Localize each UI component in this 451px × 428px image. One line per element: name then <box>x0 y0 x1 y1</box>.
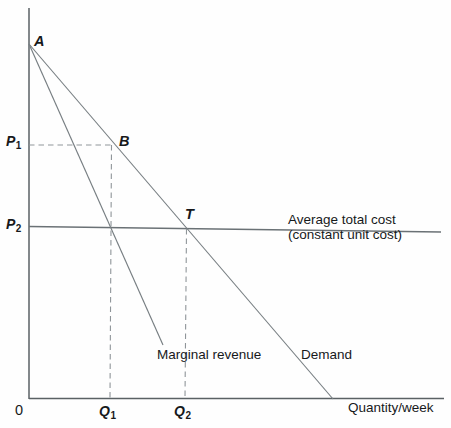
y-tick-p1-base: P <box>6 133 15 149</box>
point-label-a: A <box>34 33 45 49</box>
x-tick-q2: Q2 <box>174 403 190 419</box>
x-tick-q1-sub: 1 <box>110 410 116 421</box>
demand-label: Demand <box>301 347 352 362</box>
average-total-cost-sublabel: (constant unit cost) <box>288 227 402 242</box>
marginal-revenue-label: Marginal revenue <box>157 347 261 362</box>
point-label-b: B <box>119 133 130 149</box>
y-tick-p1-sub: 1 <box>16 140 22 151</box>
x-axis-label: Quantity/week <box>348 400 434 415</box>
x-tick-q1: Q1 <box>99 403 115 419</box>
guide-q1-vertical <box>110 145 112 398</box>
x-tick-q2-sub: 2 <box>185 410 191 421</box>
guide-q2-vertical <box>185 229 187 398</box>
x-tick-q1-base: Q <box>99 403 110 419</box>
marginal-revenue-line <box>29 44 163 345</box>
economics-diagram: A B T P1 P2 Q1 Q2 0 Quantity/week Margin… <box>0 0 451 428</box>
point-label-t: T <box>185 206 194 222</box>
y-tick-p2-sub: 2 <box>16 223 22 234</box>
x-tick-q2-base: Q <box>174 403 185 419</box>
y-tick-p2: P2 <box>6 216 21 232</box>
average-total-cost-label: Average total cost <box>288 212 402 227</box>
y-tick-p1: P1 <box>6 133 21 149</box>
origin-label: 0 <box>15 402 23 418</box>
average-total-cost-label-block: Average total cost (constant unit cost) <box>288 212 402 242</box>
y-tick-p2-base: P <box>6 216 15 232</box>
